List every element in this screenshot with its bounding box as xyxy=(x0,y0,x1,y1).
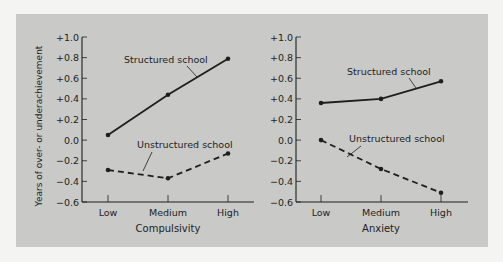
y-tick-label: +1.0 xyxy=(270,32,293,43)
x-category-label: Medium xyxy=(362,207,400,218)
x-category-label: Low xyxy=(99,207,118,218)
y-tick-label: +0.8 xyxy=(270,52,293,63)
figure-panel xyxy=(16,14,488,247)
data-point-marker xyxy=(106,133,111,138)
data-point-marker xyxy=(166,93,171,98)
y-tick-label: −0.6 xyxy=(56,197,79,208)
data-point-marker xyxy=(319,101,324,106)
data-point-marker xyxy=(379,97,384,102)
x-category-label: Low xyxy=(312,207,331,218)
y-tick-label: +0.6 xyxy=(270,73,293,84)
y-tick-label: +0.4 xyxy=(270,93,293,104)
y-tick-label: 0.0 xyxy=(278,135,293,146)
chart-figure: Years of over- or underachievement +1.0+… xyxy=(0,0,503,262)
y-tick-label: −0.2 xyxy=(270,155,293,166)
y-tick-label: +0.2 xyxy=(270,114,293,125)
y-axis-title: Years of over- or underachievement xyxy=(34,45,44,207)
y-tick-label: −0.4 xyxy=(270,176,293,187)
data-point-marker xyxy=(319,138,324,143)
figure: Years of over- or underachievement +1.0+… xyxy=(0,0,503,262)
x-category-label: Medium xyxy=(149,207,187,218)
y-tick-label: −0.4 xyxy=(56,176,79,187)
unstructured-school-label: Unstructured school xyxy=(349,133,445,144)
y-tick-label: +1.0 xyxy=(56,32,79,43)
x-axis-title: Compulsivity xyxy=(136,223,201,234)
data-point-marker xyxy=(166,176,171,181)
structured-school-label: Structured school xyxy=(347,66,431,77)
y-tick-label: +0.8 xyxy=(56,52,79,63)
y-tick-label: −0.2 xyxy=(56,155,79,166)
y-tick-label: +0.4 xyxy=(56,93,79,104)
structured-school-label: Structured school xyxy=(124,54,208,65)
y-tick-label: 0.0 xyxy=(64,135,79,146)
data-point-marker xyxy=(379,167,384,172)
y-tick-label: +0.6 xyxy=(56,73,79,84)
x-category-label: High xyxy=(430,207,452,218)
data-point-marker xyxy=(226,56,231,61)
unstructured-school-label: Unstructured school xyxy=(137,139,233,150)
y-tick-label: +0.2 xyxy=(56,114,79,125)
y-tick-label: −0.6 xyxy=(270,197,293,208)
data-point-marker xyxy=(439,79,444,84)
data-point-marker xyxy=(106,168,111,173)
data-point-marker xyxy=(439,190,444,195)
data-point-marker xyxy=(226,151,231,156)
x-category-label: High xyxy=(217,207,239,218)
x-axis-title: Anxiety xyxy=(362,223,400,234)
